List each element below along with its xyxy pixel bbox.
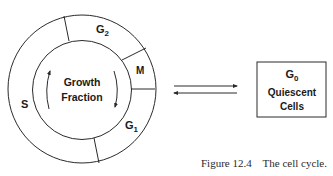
divider-s-g2 [64, 16, 69, 41]
cycle-arrow-down-icon [114, 71, 117, 107]
divider-g2-m [122, 48, 146, 60]
phase-label-s: S [21, 99, 28, 110]
phase-label-m: M [136, 66, 144, 76]
cell-cycle-diagram: Growth Fraction G2 M G1 S G0 Quiescent C… [0, 0, 333, 176]
growth-fraction-label: Growth Fraction [52, 75, 112, 105]
divider-g1-s [94, 138, 99, 163]
phase-label-g1: G1 [125, 120, 138, 134]
cycle-arrow-up-icon [47, 71, 50, 109]
phase-label-g2: G2 [96, 24, 109, 38]
cells-label: Cells [257, 100, 327, 114]
growth-fraction-line2: Fraction [52, 90, 112, 105]
quiescent-box-text: G0 Quiescent Cells [257, 67, 327, 114]
figure-caption-text: The cell cycle. [263, 157, 327, 169]
quiescent-label: Quiescent [257, 86, 327, 100]
g0-label: G0 [257, 67, 327, 86]
figure-caption: Figure 12.4 The cell cycle. [190, 145, 327, 176]
growth-fraction-line1: Growth [52, 75, 112, 90]
figure-number: Figure 12.4 [201, 157, 252, 169]
